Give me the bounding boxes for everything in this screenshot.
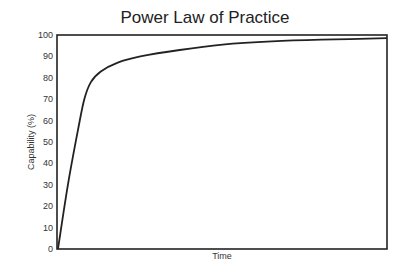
y-tick-label: 10 (43, 223, 53, 233)
y-tick-label: 40 (43, 158, 53, 168)
y-tick-label: 100 (38, 30, 53, 40)
x-axis-label: Time (57, 251, 387, 261)
y-tick-label: 70 (43, 94, 53, 104)
y-tick-label: 20 (43, 201, 53, 211)
y-tick-label: 0 (48, 244, 53, 254)
chart-plot-area: 0102030405060708090100 (0, 0, 410, 272)
y-tick-label: 60 (43, 116, 53, 126)
capability-curve (58, 38, 387, 249)
y-tick-label: 50 (43, 137, 53, 147)
y-axis-ticks: 0102030405060708090100 (38, 30, 53, 254)
y-tick-label: 80 (43, 73, 53, 83)
y-tick-label: 90 (43, 51, 53, 61)
y-tick-label: 30 (43, 180, 53, 190)
y-axis-label: Capability (%) (26, 114, 36, 170)
